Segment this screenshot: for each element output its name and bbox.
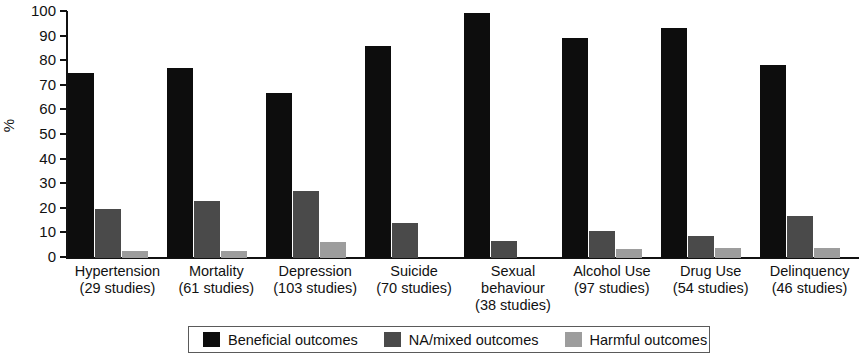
y-tick-mark: [60, 158, 67, 160]
bar: [814, 248, 840, 258]
legend-label: NA/mixed outcomes: [409, 332, 539, 348]
bar: [194, 201, 220, 258]
y-tick-mark: [60, 231, 67, 233]
y-tick-label: 60: [22, 101, 56, 116]
bar-group: [760, 11, 859, 258]
bar: [95, 209, 121, 258]
legend-swatch-icon: [565, 332, 582, 347]
y-tick-mark: [60, 35, 67, 37]
bar-group: [562, 11, 661, 258]
bar: [68, 73, 94, 258]
bar: [715, 248, 741, 258]
bar: [167, 68, 193, 258]
y-tick-mark: [60, 256, 67, 258]
y-tick-mark: [60, 133, 67, 135]
y-tick-label: 10: [22, 224, 56, 239]
y-tick-label: 90: [22, 28, 56, 43]
y-tick-label: 70: [22, 77, 56, 92]
bar: [122, 251, 148, 258]
legend-item: Beneficial outcomes: [203, 332, 358, 348]
x-axis-category-label: Delinquency(46 studies): [750, 263, 863, 297]
category-name: Delinquency: [750, 263, 863, 280]
bar: [589, 231, 615, 258]
bar: [688, 236, 714, 258]
y-tick-mark: [60, 207, 67, 209]
bar-group: [68, 11, 167, 258]
legend-swatch-icon: [203, 332, 220, 347]
y-axis-title: %: [1, 119, 16, 132]
y-tick-label: 40: [22, 151, 56, 166]
bar: [221, 251, 247, 258]
y-tick-label: 80: [22, 52, 56, 67]
bar: [562, 38, 588, 258]
y-tick-label: 30: [22, 175, 56, 190]
bar: [760, 65, 786, 258]
y-tick-mark: [60, 108, 67, 110]
y-tick-label: 100: [22, 3, 56, 18]
bar: [787, 216, 813, 258]
bar-group: [464, 11, 563, 258]
legend-swatch-icon: [384, 332, 401, 347]
bar: [616, 249, 642, 258]
bar: [293, 191, 319, 258]
legend-item: Harmful outcomes: [565, 332, 708, 348]
bar: [266, 93, 292, 258]
legend-label: Harmful outcomes: [590, 332, 708, 348]
bar: [365, 46, 391, 258]
x-axis-category-labels: Hypertension(29 studies)Mortality(61 stu…: [68, 263, 859, 318]
bar: [392, 223, 418, 258]
bar-group: [266, 11, 365, 258]
y-tick-mark: [60, 59, 67, 61]
bar: [320, 242, 346, 258]
category-study-count: (46 studies): [750, 280, 863, 297]
bar: [464, 13, 490, 258]
legend-item: NA/mixed outcomes: [384, 332, 539, 348]
bar-chart: % 1009080706050403020100 Hypertension(29…: [0, 0, 863, 357]
y-tick-label: 0: [22, 249, 56, 264]
bar-group: [661, 11, 760, 258]
y-tick-mark: [60, 182, 67, 184]
y-tick-label: 20: [22, 200, 56, 215]
category-study-count: (38 studies): [454, 297, 573, 314]
y-tick-mark: [60, 84, 67, 86]
y-tick-label: 50: [22, 126, 56, 141]
legend-label: Beneficial outcomes: [228, 332, 358, 348]
bar: [491, 241, 517, 258]
y-tick-mark: [60, 10, 67, 12]
plot-area: [68, 11, 859, 258]
bar-group: [365, 11, 464, 258]
chart-legend: Beneficial outcomesNA/mixed outcomesHarm…: [188, 326, 710, 353]
bar-group: [167, 11, 266, 258]
bar: [661, 28, 687, 258]
